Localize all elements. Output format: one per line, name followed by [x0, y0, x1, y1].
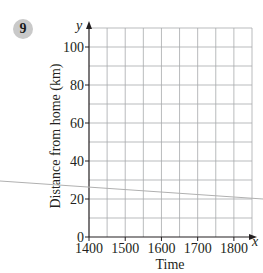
y-tick-label: 20	[70, 192, 84, 207]
y-tick-label: 100	[63, 40, 84, 55]
y-tick-label: 60	[70, 116, 84, 131]
x-axis-title: Time	[155, 257, 184, 272]
x-tick-label: 1800	[220, 241, 248, 256]
y-axis-title: Distance from home (km)	[48, 63, 64, 208]
y-tick-label: 80	[70, 78, 84, 93]
y-axis-variable: y	[74, 18, 83, 33]
x-axis-variable: x	[251, 234, 259, 249]
y-axis-arrow-icon	[86, 21, 92, 29]
x-tick-label: 1400	[75, 241, 103, 256]
y-tick-label: 40	[70, 154, 84, 169]
distance-time-grid: 020406080100 14001500160017001800 y x Di…	[0, 0, 263, 273]
chart-grid	[89, 28, 252, 237]
x-tick-labels: 14001500160017001800	[75, 237, 248, 256]
x-tick-label: 1500	[111, 241, 139, 256]
chart-axes	[86, 21, 257, 240]
x-tick-label: 1700	[184, 241, 212, 256]
x-tick-label: 1600	[147, 241, 175, 256]
stray-scan-line	[0, 181, 263, 199]
y-tick-labels: 020406080100	[63, 40, 89, 245]
